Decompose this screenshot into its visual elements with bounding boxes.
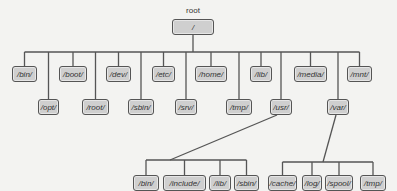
node-dir: /opt/	[38, 99, 59, 115]
node-dir: /home/	[195, 66, 227, 82]
node-dir: /etc/	[152, 66, 175, 82]
node-var-child: /spool/	[325, 175, 353, 191]
node-dir: /dev/	[106, 66, 131, 82]
node-var-child: /cache/	[268, 175, 297, 191]
node-dir: /tmp/	[226, 99, 252, 115]
node-dir: /srv/	[175, 99, 197, 115]
node-var-child: /tmp/	[360, 175, 386, 191]
node-dir: /sbin/	[128, 99, 154, 115]
node-dir: /root/	[82, 99, 109, 115]
node-usr-child: /lib/	[209, 175, 231, 191]
node-dir: /boot/	[59, 66, 87, 82]
node-usr-child: /sbin/	[234, 175, 259, 191]
node-usr-child: /bin/	[133, 175, 159, 191]
node-dir: /mnt/	[347, 66, 372, 82]
node-dir: /media/	[294, 66, 327, 82]
node-dir: /bin/	[12, 66, 37, 82]
filesystem-tree-diagram: root //bin//boot//dev//etc//home//lib//m…	[0, 0, 397, 191]
node-usr-child: /include/	[163, 175, 206, 191]
node-dir: /var/	[327, 99, 349, 115]
node-dir: /usr/	[270, 99, 292, 115]
node-dir: /lib/	[250, 66, 272, 82]
node-root: /	[172, 19, 214, 35]
node-var-child: /log/	[302, 175, 322, 191]
